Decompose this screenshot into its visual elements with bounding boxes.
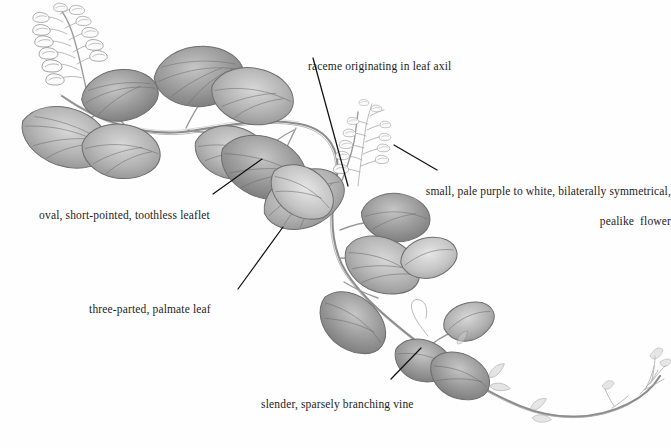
central-raceme (334, 99, 391, 186)
annotation-pealike-flower-line2: pealike flower (399, 214, 671, 229)
upper-left-raceme (33, 3, 108, 88)
annotation-branching-vine: slender, sparsely branching vine (249, 382, 414, 427)
annotation-raceme-axil-text: raceme originating in leaf axil (308, 60, 451, 72)
leader-line-palmate-leaf (238, 227, 283, 289)
annotation-raceme-axil: raceme originating in leaf axil (296, 44, 451, 89)
leader-line-pealike-flower (394, 145, 437, 170)
annotation-branching-vine-text: slender, sparsely branching vine (261, 398, 414, 410)
annotation-toothless-leaflet: oval, short-pointed, toothless leaflet (27, 193, 210, 238)
annotation-palmate-leaf: three-parted, palmate leaf (77, 287, 211, 332)
pealike-flower-group-left (33, 3, 108, 85)
annotation-pealike-flower: small, pale purple to white, bilaterally… (399, 169, 671, 259)
annotation-palmate-leaf-text: three-parted, palmate leaf (89, 303, 211, 315)
illustration-page: raceme originating in leaf axil small, p… (0, 0, 671, 448)
annotation-toothless-leaflet-text: oval, short-pointed, toothless leaflet (39, 209, 210, 221)
annotation-pealike-flower-line1: small, pale purple to white, bilaterally… (426, 185, 671, 197)
trifoliate-leaf-cluster-upper-left (13, 65, 164, 184)
